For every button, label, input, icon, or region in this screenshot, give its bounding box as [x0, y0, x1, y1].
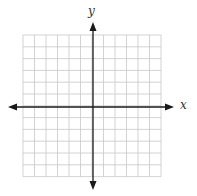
x-axis-arrow-right-icon [165, 104, 174, 111]
grid-lines [23, 35, 161, 177]
x-axis-label: x [180, 99, 187, 111]
x-axis-arrow-left-icon [8, 104, 17, 111]
y-axis-arrow-down-icon [90, 181, 97, 190]
coordinate-plane: y x [0, 0, 197, 196]
coordinate-grid [0, 0, 197, 196]
y-axis-label: y [88, 5, 95, 17]
y-axis-arrow-up-icon [90, 22, 97, 31]
